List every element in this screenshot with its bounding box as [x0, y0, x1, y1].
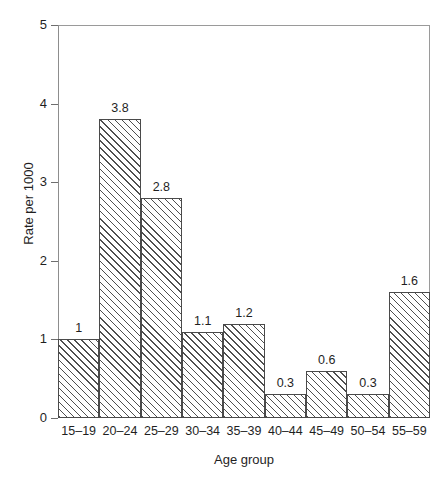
bar-value-label: 0.3: [347, 377, 388, 390]
y-tick-label: 1: [25, 332, 47, 345]
bar: [265, 394, 306, 418]
x-tick-label: 55–59: [389, 424, 430, 439]
bar: [306, 371, 347, 418]
bar: [389, 292, 430, 418]
histogram-chart: 012345 Rate per 1000 13.82.81.11.20.30.6…: [0, 0, 447, 482]
bar: [223, 324, 264, 418]
x-tick-label: 40–44: [265, 424, 306, 439]
bars-layer: 13.82.81.11.20.30.60.31.6: [58, 25, 430, 418]
y-tick-mark: [51, 339, 58, 340]
bar-value-label: 2.8: [141, 181, 182, 194]
plot-area: 13.82.81.11.20.30.60.31.6: [58, 25, 430, 418]
bar-value-label: 1.6: [389, 275, 430, 288]
x-tick-label: 45–49: [306, 424, 347, 439]
bar-value-label: 1.2: [223, 307, 264, 320]
y-tick-label: 0: [25, 411, 47, 424]
y-tick-mark: [51, 25, 58, 26]
y-tick-mark: [51, 104, 58, 105]
x-tick-label: 50–54: [347, 424, 388, 439]
y-tick-label: 5: [25, 18, 47, 31]
x-tick-label: 35–39: [223, 424, 264, 439]
bar-value-label: 0.3: [265, 377, 306, 390]
x-axis-title: Age group: [58, 452, 430, 467]
bar-value-label: 3.8: [99, 102, 140, 115]
x-tick-label: 30–34: [182, 424, 223, 439]
bar: [99, 119, 140, 418]
bar: [58, 339, 99, 418]
y-tick-label: 4: [25, 97, 47, 110]
bar-value-label: 1.1: [182, 315, 223, 328]
bar: [347, 394, 388, 418]
x-tick-label: 25–29: [141, 424, 182, 439]
bar: [182, 332, 223, 418]
y-tick-mark: [51, 182, 58, 183]
y-axis-title: Rate per 1000: [21, 114, 36, 294]
y-tick-mark: [51, 261, 58, 262]
y-tick-mark: [51, 418, 58, 419]
x-tick-label: 20–24: [99, 424, 140, 439]
x-tick-label: 15–19: [58, 424, 99, 439]
bar: [141, 198, 182, 418]
x-axis: 15–1920–2425–2930–3435–3940–4445–4950–54…: [58, 424, 430, 444]
bar-value-label: 0.6: [306, 354, 347, 367]
bar-value-label: 1: [58, 322, 99, 335]
